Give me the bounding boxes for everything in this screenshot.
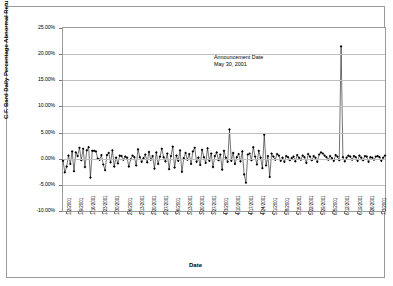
gridline <box>63 106 385 107</box>
x-tick-label: 1/9/2001 <box>80 198 85 215</box>
x-tick-label: 1/23/2001 <box>104 195 109 215</box>
x-tick-label: 5/1/2001 <box>274 198 279 215</box>
data-point-marker <box>367 161 370 164</box>
data-point-marker <box>184 152 187 155</box>
data-point-marker <box>171 145 174 148</box>
data-point-marker <box>192 150 195 153</box>
data-point-marker <box>153 167 156 170</box>
data-point-marker <box>104 169 107 172</box>
data-point-marker <box>155 151 158 154</box>
data-point-marker <box>243 173 246 176</box>
data-point-marker <box>265 164 268 167</box>
data-point-marker <box>316 161 319 164</box>
x-tick-label: 6/26/2001 <box>371 195 376 215</box>
data-point-marker <box>177 159 180 162</box>
data-point-marker <box>159 155 162 158</box>
data-point-marker <box>221 168 224 171</box>
data-point-marker <box>85 149 88 152</box>
x-tick-label: 6/19/2001 <box>359 195 364 215</box>
data-point-marker <box>256 163 259 166</box>
data-point-marker <box>62 159 65 162</box>
x-tick-label: 5/8/2001 <box>286 198 291 215</box>
data-point-marker <box>208 159 211 162</box>
data-point-marker <box>148 151 151 154</box>
data-point-marker <box>144 153 147 156</box>
x-tick-label: 5/15/2001 <box>298 195 303 215</box>
x-tick-label: 7/3/2001 <box>383 198 388 215</box>
data-point-marker <box>69 163 72 166</box>
y-tick-mark <box>59 28 62 29</box>
data-point-marker <box>234 163 237 166</box>
data-point-marker <box>283 161 286 164</box>
x-tick-label: 3/13/2001 <box>189 195 194 215</box>
data-point-marker <box>164 160 167 163</box>
x-tick-label: 3/27/2001 <box>213 195 218 215</box>
data-point-marker <box>109 161 112 164</box>
data-point-marker <box>261 167 264 170</box>
data-point-marker <box>181 170 184 173</box>
data-point-marker <box>267 155 270 158</box>
x-tick-label: 6/12/2001 <box>346 195 351 215</box>
data-point-marker <box>210 152 213 155</box>
data-point-marker <box>168 168 171 171</box>
data-point-marker <box>223 150 226 153</box>
chart-frame: 25.00%20.00%15.00%10.00%5.00%0.00%-5.00%… <box>6 6 385 278</box>
y-tick-mark <box>59 133 62 134</box>
data-point-marker <box>214 155 217 158</box>
x-tick-label: 4/3/2001 <box>225 198 230 215</box>
y-tick-mark <box>59 211 62 212</box>
data-point-marker <box>128 165 131 168</box>
data-point-marker <box>166 152 169 155</box>
x-tick-label: 1/2/2001 <box>68 198 73 215</box>
y-tick-mark <box>59 159 62 160</box>
data-point-marker <box>111 149 114 152</box>
y-tick-mark <box>59 106 62 107</box>
y-tick-label: 15.00% <box>38 78 55 83</box>
x-axis-title: Date <box>7 262 384 268</box>
data-point-marker <box>140 161 143 164</box>
data-point-marker <box>279 159 282 162</box>
x-tick-label: 2/13/2001 <box>141 195 146 215</box>
data-point-marker <box>63 171 66 174</box>
gridline <box>63 159 385 160</box>
data-point-marker <box>226 161 229 164</box>
data-point-marker <box>190 163 193 166</box>
x-tick-label: 3/6/2001 <box>177 198 182 215</box>
data-point-marker <box>135 164 138 167</box>
x-tick-label: 1/30/2001 <box>116 195 121 215</box>
data-point-marker <box>230 159 233 162</box>
y-tick-mark <box>59 80 62 81</box>
data-point-marker <box>201 148 204 151</box>
data-point-marker <box>239 160 242 163</box>
x-tick-label: 6/5/2001 <box>334 198 339 215</box>
data-point-marker <box>193 146 196 149</box>
data-point-marker <box>76 155 79 158</box>
gridline <box>63 80 385 81</box>
data-point-marker <box>175 154 178 157</box>
data-point-marker <box>74 151 77 154</box>
data-point-marker <box>65 165 68 168</box>
data-point-marker <box>89 176 92 179</box>
y-tick-mark <box>59 185 62 186</box>
data-point-marker <box>254 155 257 158</box>
y-tick-label: -5.00% <box>39 182 55 187</box>
x-tick-label: 4/10/2001 <box>237 195 242 215</box>
data-point-marker <box>380 159 383 162</box>
data-point-marker <box>113 165 116 168</box>
y-tick-mark <box>59 54 62 55</box>
x-tick-label: 2/6/2001 <box>129 198 134 215</box>
gridline <box>63 185 385 186</box>
data-point-marker <box>71 150 74 153</box>
x-tick-label: 4/24/2001 <box>262 195 267 215</box>
data-point-marker <box>340 45 343 48</box>
data-point-marker <box>270 152 273 155</box>
y-axis-title: C.F. Bard Daily Percentage Abnormal Retu… <box>3 0 9 119</box>
x-tick-label: 4/17/2001 <box>250 195 255 215</box>
data-point-marker <box>356 159 359 162</box>
data-point-marker <box>257 150 260 153</box>
data-point-marker <box>268 176 271 179</box>
data-point-marker <box>206 147 209 150</box>
y-tick-label: 10.00% <box>38 104 55 109</box>
data-point-marker <box>215 151 218 154</box>
data-point-marker <box>173 166 176 169</box>
